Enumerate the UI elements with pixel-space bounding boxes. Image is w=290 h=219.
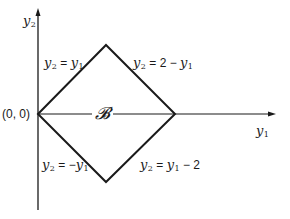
eq-rhs-prefix: 2 − <box>160 56 180 70</box>
y1-axis-label-sub: 1 <box>264 130 269 139</box>
eq-rhs: y <box>76 157 83 172</box>
y2-axis-label: y2 <box>23 14 36 29</box>
edge-label-bottom-left: y2 = −y1 <box>42 158 89 173</box>
region-b-label: 𝓑 <box>92 105 113 122</box>
eq-lhs: y <box>44 55 51 70</box>
y2-axis-label-sub: 2 <box>31 20 36 29</box>
eq-rhs: y <box>180 55 187 70</box>
edge-label-top-right: y2 = 2 − y1 <box>133 56 193 71</box>
eq-sign: = <box>146 56 160 70</box>
eq-rhs: y <box>167 157 174 172</box>
eq-rhs-sub: 1 <box>188 62 193 71</box>
eq-rhs: y <box>71 55 78 70</box>
y2-axis-label-var: y <box>23 13 30 28</box>
diagram-canvas: y2 y1 (0, 0) 𝓑 y2 = y1 y2 = 2 − y1 y2 = … <box>0 0 290 219</box>
eq-sign: = <box>153 158 167 172</box>
eq-sign: = <box>57 56 71 70</box>
y2-axis-arrow-icon <box>36 8 41 16</box>
y1-axis-label: y1 <box>256 124 269 139</box>
eq-lhs: y <box>133 55 140 70</box>
eq-rhs-suffix: − 2 <box>180 158 200 172</box>
eq-rhs-sub: 1 <box>84 164 89 173</box>
eq-lhs: y <box>42 157 49 172</box>
y1-axis-arrow-icon <box>268 112 276 117</box>
y1-axis-label-var: y <box>256 123 263 138</box>
eq-sign: = <box>55 158 69 172</box>
eq-rhs-prefix: − <box>69 158 76 172</box>
edge-label-top-left: y2 = y1 <box>44 56 84 71</box>
edge-label-bottom-right: y2 = y1 − 2 <box>140 158 200 173</box>
diagram-lines <box>0 0 290 219</box>
eq-rhs-sub: 1 <box>79 62 84 71</box>
origin-label: (0, 0) <box>2 108 30 120</box>
eq-lhs: y <box>140 157 147 172</box>
